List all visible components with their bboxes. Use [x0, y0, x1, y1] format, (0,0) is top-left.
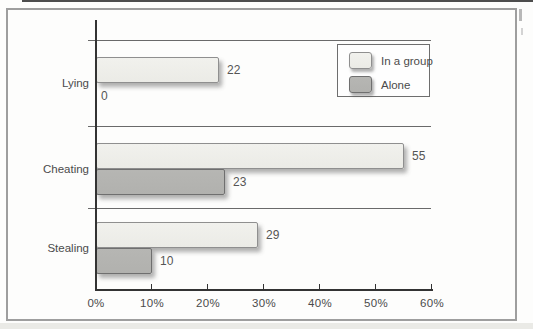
category-label-lying: Lying	[8, 75, 89, 91]
legend: In a group Alone	[337, 44, 430, 97]
x-axis-tick-label: 60%	[412, 295, 452, 311]
category-label-cheating: Cheating	[8, 161, 89, 177]
bar-in-a-group-lying	[96, 57, 219, 83]
bar-alone-cheating	[96, 169, 225, 195]
value-label: 0	[101, 88, 108, 104]
x-axis-tick-label: 40%	[300, 295, 340, 311]
value-label: 55	[412, 148, 425, 164]
legend-swatch-alone	[349, 76, 372, 93]
legend-item-alone: Alone	[349, 76, 429, 93]
value-label: 23	[233, 174, 246, 190]
x-axis-tick	[431, 284, 432, 290]
x-axis-tick	[375, 284, 376, 290]
bar-in-a-group-stealing	[96, 222, 258, 248]
category-separator-gridline	[88, 208, 431, 209]
category-label-stealing: Stealing	[8, 240, 89, 256]
category-separator-gridline	[88, 126, 431, 127]
legend-item-in-a-group: In a group	[349, 52, 429, 69]
x-axis-tick	[151, 284, 152, 290]
value-label: 10	[160, 253, 173, 269]
x-axis-line	[95, 289, 433, 291]
x-axis-tick	[207, 284, 208, 290]
x-axis-tick-label: 30%	[244, 295, 284, 311]
x-axis-tick-label: 10%	[132, 295, 172, 311]
chart-area: Lying220Cheating5523Stealing29100%10%20%…	[0, 0, 533, 329]
x-axis-tick-label: 50%	[356, 295, 396, 311]
bar-in-a-group-cheating	[96, 143, 404, 169]
bar-alone-stealing	[96, 248, 152, 274]
y-axis-line	[95, 20, 97, 290]
x-axis-tick-label: 20%	[188, 295, 228, 311]
x-axis-tick-label: 0%	[76, 295, 116, 311]
x-axis-tick	[319, 284, 320, 290]
page: Lying220Cheating5523Stealing29100%10%20%…	[0, 0, 533, 329]
category-separator-gridline	[88, 40, 431, 41]
legend-swatch-in-a-group	[349, 52, 372, 69]
value-label: 22	[227, 62, 240, 78]
legend-label-in-a-group: In a group	[381, 55, 433, 67]
value-label: 29	[266, 227, 279, 243]
x-axis-tick	[95, 284, 96, 290]
legend-label-alone: Alone	[381, 79, 410, 91]
x-axis-tick	[263, 284, 264, 290]
